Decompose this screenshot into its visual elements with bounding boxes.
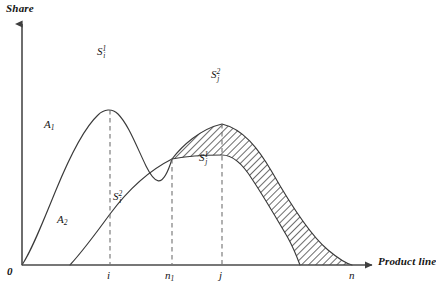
point-label-s-j-1: S1j — [199, 151, 207, 166]
x-tick-label-i: i — [107, 270, 110, 281]
y-axis-label: Share — [6, 3, 34, 14]
curve-label-a2: A2 — [57, 214, 67, 227]
x-tick-n1-sub: 1 — [171, 274, 175, 283]
point-label-s-i-1: S1i — [97, 45, 105, 60]
curve-a2-sub: 2 — [64, 218, 68, 227]
curve-a1-sub: 1 — [51, 123, 55, 132]
point-label-s-j-2: S2j — [211, 68, 219, 83]
curve-a1-base: A — [44, 118, 51, 130]
x-tick-label-n1: n1 — [165, 270, 174, 283]
x-axis-label: Product line — [378, 256, 436, 267]
curve-label-a1: A1 — [44, 119, 54, 132]
origin-label: 0 — [7, 266, 13, 277]
point-label-s-i-2: S2i — [113, 190, 121, 205]
x-tick-label-j: j — [219, 270, 222, 281]
curve-a2-base: A — [57, 213, 64, 225]
x-tick-label-n: n — [349, 270, 355, 281]
